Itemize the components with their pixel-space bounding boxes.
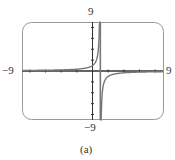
- graph-plot: [0, 0, 175, 160]
- axes: [22, 22, 163, 120]
- y-min-label: −9: [84, 122, 96, 133]
- figure-caption: (a): [80, 144, 92, 155]
- y-max-label: 9: [88, 6, 94, 17]
- x-min-label: −9: [2, 65, 14, 76]
- x-max-label: 9: [166, 65, 172, 76]
